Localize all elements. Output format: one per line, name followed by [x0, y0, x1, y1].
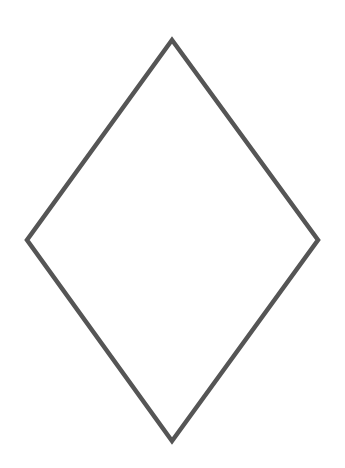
diagram-canvas: [0, 0, 345, 468]
rhombus-shape: [27, 40, 318, 441]
diagram-svg: [0, 0, 345, 468]
